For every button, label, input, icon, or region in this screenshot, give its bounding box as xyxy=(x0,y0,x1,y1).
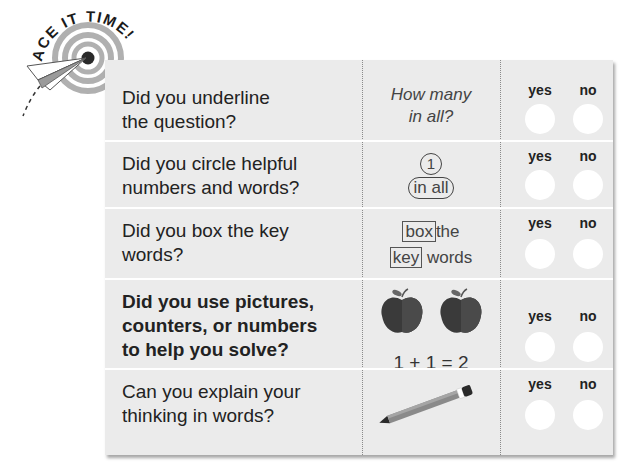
boxed-word: key xyxy=(390,247,422,268)
flight-trail xyxy=(23,86,40,116)
apple-icon xyxy=(381,289,422,333)
checklist-card: Did you underline the question? How many… xyxy=(105,60,613,455)
checklist-row-box: Did you box the key words? boxthe key wo… xyxy=(105,207,613,278)
question-text: Did you circle helpful numbers and words… xyxy=(122,152,352,200)
yes-label: yes xyxy=(520,82,560,98)
yes-label: yes xyxy=(520,308,560,324)
no-label: no xyxy=(568,148,608,164)
yes-radio[interactable] xyxy=(525,400,555,430)
checklist-row-pictures: Did you use pictures, counters, or numbe… xyxy=(105,278,613,368)
yes-radio[interactable] xyxy=(525,170,555,200)
no-radio[interactable] xyxy=(573,400,603,430)
question-text: Did you use pictures, counters, or numbe… xyxy=(122,290,352,362)
answer-group: yes no xyxy=(500,215,613,265)
example-boxed: boxthe key words xyxy=(362,219,500,271)
example-circled: 1 in all xyxy=(362,153,500,199)
checklist-row-circle: Did you circle helpful numbers and words… xyxy=(105,140,613,207)
circled-number: 1 xyxy=(420,153,442,175)
question-text: Can you explain your thinking in words? xyxy=(122,380,352,428)
no-radio[interactable] xyxy=(573,104,603,134)
pencil-icon xyxy=(362,384,500,424)
no-label: no xyxy=(568,215,608,231)
apple-icon xyxy=(440,289,481,333)
no-radio[interactable] xyxy=(573,170,603,200)
example-apples: 1 + 1 = 2 xyxy=(362,288,500,374)
checklist-row-explain: Can you explain your thinking in words? … xyxy=(105,368,613,455)
circled-phrase: in all xyxy=(408,177,455,199)
yes-radio[interactable] xyxy=(525,239,555,269)
checklist-row-underline: Did you underline the question? How many… xyxy=(105,60,613,140)
yes-label: yes xyxy=(520,148,560,164)
no-radio[interactable] xyxy=(573,332,603,362)
no-label: no xyxy=(568,308,608,324)
yes-radio[interactable] xyxy=(525,332,555,362)
no-label: no xyxy=(568,376,608,392)
question-text: Did you box the key words? xyxy=(122,219,352,267)
question-text: Did you underline the question? xyxy=(122,86,352,134)
yes-label: yes xyxy=(520,376,560,392)
example-how-many: How many in all? xyxy=(362,84,500,128)
answer-group: yes no xyxy=(500,82,613,132)
answer-group: yes no xyxy=(500,308,613,358)
no-radio[interactable] xyxy=(573,239,603,269)
no-label: no xyxy=(568,82,608,98)
yes-label: yes xyxy=(520,215,560,231)
yes-radio[interactable] xyxy=(525,104,555,134)
boxed-word: box xyxy=(402,221,435,242)
answer-group: yes no xyxy=(500,148,613,198)
example-pencil xyxy=(362,384,500,428)
answer-group: yes no xyxy=(500,376,613,426)
